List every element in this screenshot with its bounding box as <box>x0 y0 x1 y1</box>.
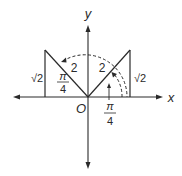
arc-arrowhead-icon <box>61 58 67 63</box>
origin-label: O <box>76 101 86 116</box>
right-angle-fraction: π 4 <box>104 100 116 127</box>
coordinate-diagram: y x O 2 √2 π 4 2 √2 π 4 <box>0 0 182 176</box>
left-angle-numerator: π <box>59 70 67 82</box>
x-axis-right-arrow-icon <box>156 95 163 100</box>
y-axis-label: y <box>84 6 93 21</box>
right-vertical-label: √2 <box>134 72 146 84</box>
right-angle-numerator: π <box>106 100 114 112</box>
left-vertical-label: √2 <box>31 72 43 84</box>
left-hypotenuse-label: 2 <box>71 61 78 75</box>
x-axis-left-arrow-icon <box>13 95 20 100</box>
right-angle-denominator: 4 <box>107 115 113 127</box>
right-hypotenuse-label: 2 <box>99 61 106 75</box>
y-axis-down-arrow-icon <box>86 162 91 169</box>
rotation-arc-small <box>112 72 123 97</box>
up-arrow-icon <box>107 83 111 88</box>
x-axis-label: x <box>167 90 175 105</box>
left-angle-denominator: 4 <box>60 83 66 95</box>
y-axis-up-arrow-icon <box>86 25 91 32</box>
